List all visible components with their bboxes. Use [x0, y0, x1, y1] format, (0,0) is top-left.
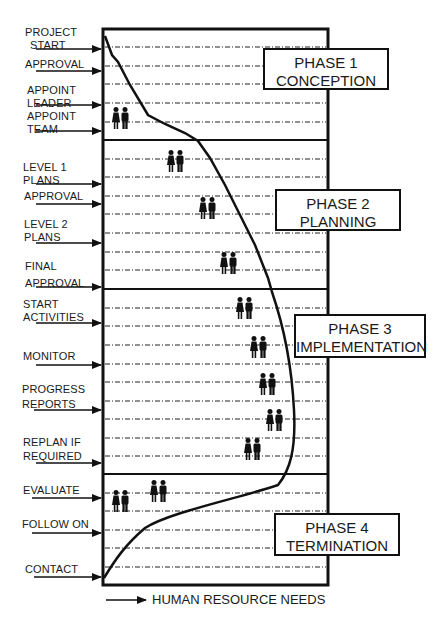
phase-name: IMPLEMENTATION — [296, 338, 424, 356]
resource-curve — [104, 36, 294, 578]
phase-box-termination: PHASE 4 TERMINATION — [274, 513, 400, 556]
phase-name: PLANNING — [277, 213, 399, 231]
phase-box-conception: PHASE 1 CONCEPTION — [263, 48, 389, 90]
main-frame — [103, 29, 328, 585]
phase-title: PHASE 4 — [276, 519, 398, 537]
phase-title: PHASE 3 — [296, 320, 424, 338]
phase-box-planning: PHASE 2 PLANNING — [275, 189, 401, 231]
phase-title: PHASE 2 — [277, 195, 399, 213]
people-icons — [112, 107, 283, 512]
x-axis-label: HUMAN RESOURCE NEEDS — [152, 592, 325, 607]
phase-box-implementation: PHASE 3 IMPLEMENTATION — [294, 314, 426, 358]
phase-title: PHASE 1 — [265, 54, 387, 72]
grid-lines — [105, 47, 326, 567]
phase-name: CONCEPTION — [265, 72, 387, 90]
milestone-arrows — [32, 49, 101, 577]
phase-name: TERMINATION — [276, 537, 398, 555]
